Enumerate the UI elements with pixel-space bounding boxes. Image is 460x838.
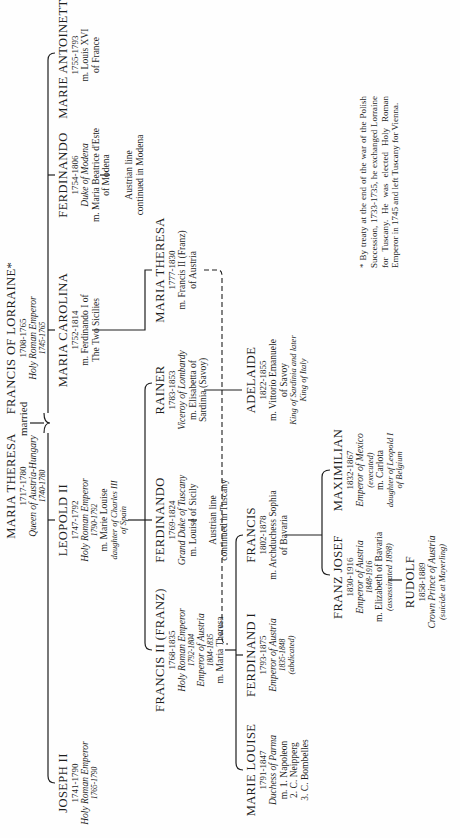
- person-dates: 1802-1878: [258, 490, 268, 579]
- person-francis-1802: FRANCIS 1802-1878 m. Archduchess Sophia …: [244, 490, 289, 579]
- person-dates: 1769-1824: [167, 475, 177, 566]
- person-title: Duke of Modena: [80, 128, 91, 222]
- person-spouse-note: of Belgium: [395, 429, 405, 511]
- person-line-note: Austrian line: [208, 475, 219, 566]
- person-reign: 1804-1835: [207, 588, 215, 712]
- person-reign: 1790-1792: [91, 478, 99, 562]
- person-name: FRANCIS II (FRANZ): [153, 588, 167, 712]
- person-maximilian: MAXIMILIAN 1832-1867 Emperor of Mexico (…: [331, 429, 405, 511]
- person-ferdinand-i: FERDINAND I 1793-1875 Emperor of Austria…: [244, 613, 297, 697]
- person-spouse: m. Archduchess Sophia: [268, 490, 279, 579]
- person-note: (assassinated 1898): [385, 532, 395, 622]
- person-francis-ii: FRANCIS II (FRANZ) 1768-1835 Holy Roman …: [153, 588, 226, 712]
- person-spouse: m. 1. Napoleon: [279, 724, 290, 817]
- person-name: RUDOLF: [403, 535, 417, 628]
- person-spouse: m. Maria Beatrice d'Este: [91, 128, 102, 222]
- person-name: FERDINAND I: [244, 613, 258, 697]
- person-reign: 1792-1804: [188, 588, 196, 712]
- person-dates: 1747-1792: [70, 478, 80, 562]
- person-leopold-ii: LEOPOLD II 1747-1792 Holy Roman Emperor …: [56, 478, 129, 562]
- person-dates: 1754-1806: [70, 128, 80, 222]
- person-dates: 1791-1847: [258, 724, 268, 817]
- person-dates: 1752-1814: [70, 273, 80, 387]
- person-name: RAINER: [153, 350, 167, 429]
- person-name: MARIE LOUISE: [244, 724, 258, 817]
- person-dates: 1717-1780: [18, 433, 28, 538]
- person-dates: 1793-1875: [258, 613, 268, 697]
- person-spouse: m. Elisabetta of: [188, 350, 199, 429]
- person-spouse: m. Maria Theresa: [215, 588, 226, 712]
- person-dates: 1755-1793: [70, 0, 80, 119]
- person-spouse: 2. C. Neipperg: [289, 724, 300, 817]
- person-name: LEOPOLD II: [56, 478, 70, 562]
- person-spouse: Sardinia (Savoy): [198, 350, 209, 429]
- person-franz-josef: FRANZ JOSEF 1830-1916 Emperor of Austria…: [331, 532, 394, 622]
- person-spouse-note: of Spain: [119, 478, 129, 562]
- person-dates: 1783-1853: [167, 350, 177, 429]
- person-line-note: continued in Tuscany: [219, 475, 230, 566]
- person-adelaide: ADELAIDE 1822-1855 m. Vittorio Emanuele …: [244, 335, 308, 424]
- person-reign: 1745-1765: [39, 262, 47, 414]
- person-name: MARIA THERESA: [153, 217, 167, 322]
- person-title: Grand Duke of Tuscany: [177, 475, 188, 566]
- person-dates: 1741-1790: [70, 741, 80, 825]
- person-spouse: 3. C. Bombelles: [300, 724, 311, 817]
- person-name: MARIA THERESA: [4, 433, 18, 538]
- person-dates: 1858-1889: [417, 535, 427, 628]
- person-spouse: of France: [91, 0, 102, 119]
- person-spouse: m. Louis XVI: [80, 0, 91, 119]
- person-spouse: of Austria: [188, 217, 199, 322]
- person-name: JOSEPH II: [56, 741, 70, 825]
- person-joseph-ii: JOSEPH II 1741-1790 Holy Roman Emperor 1…: [56, 741, 99, 825]
- person-note: (suicide at Mayerling): [438, 535, 448, 628]
- person-reign: 1848-1916: [366, 532, 374, 622]
- person-line-note: Austrian line: [124, 128, 135, 222]
- person-name: FERDINANDO: [56, 128, 70, 222]
- person-name: FRANCIS: [244, 490, 258, 579]
- person-spouse: of Bavaria: [279, 490, 290, 579]
- person-note: (abdicated): [287, 613, 297, 697]
- person-rudolf: RUDOLF 1858-1889 Crown Prince of Austria…: [403, 535, 447, 628]
- person-dates: 1777-1830: [167, 217, 177, 322]
- person-dates: 1822-1855: [258, 335, 268, 424]
- person-name: FRANZ JOSEF: [331, 532, 345, 622]
- person-reign: 1740-1780: [39, 433, 47, 538]
- person-spouse: The Two Sicilies: [91, 273, 102, 387]
- person-ferdinando-tuscany: FERDINANDO 1769-1824 Grand Duke of Tusca…: [153, 475, 230, 566]
- person-dates: 1832-1867: [345, 429, 355, 511]
- person-name: FRANCIS OF LORRAINE*: [4, 262, 18, 414]
- person-title: Viceroy of Lombardy: [177, 350, 188, 429]
- person-dates: 1708-1765: [18, 262, 28, 414]
- person-rainer: RAINER 1783-1853 Viceroy of Lombardy m. …: [153, 350, 209, 429]
- person-francis-of-lorraine: FRANCIS OF LORRAINE* 1708-1765 Holy Roma…: [4, 262, 47, 414]
- person-note: (executed): [366, 429, 376, 511]
- person-name: FERDINANDO: [153, 475, 167, 566]
- person-spouse: m. Ferdinando I of: [80, 273, 91, 387]
- person-title: Duchess of Parma: [268, 724, 279, 817]
- family-tree-page: MARIA THERESA 1717-1780 Queen of Austria…: [0, 0, 460, 838]
- person-name: MARIE ANTOINETTE: [56, 0, 70, 119]
- person-line-note: continued in Modena: [135, 128, 146, 222]
- person-marie-louise: MARIE LOUISE 1791-1847 Duchess of Parma …: [244, 724, 311, 817]
- person-spouse: m. Louise of Sicily: [188, 475, 199, 566]
- person-name: MARIA CAROLINA: [56, 273, 70, 387]
- person-spouse: of Modena: [101, 128, 112, 222]
- person-dates: 1768-1835: [167, 588, 177, 712]
- person-ferdinando-modena: FERDINANDO 1754-1806 Duke of Modena m. M…: [56, 128, 145, 222]
- person-spouse: m. Francis II (Franz): [177, 217, 188, 322]
- person-name: MAXIMILIAN: [331, 429, 345, 511]
- person-name: ADELAIDE: [244, 335, 258, 424]
- footnote: * By treaty at the end of the war of the…: [358, 96, 401, 268]
- person-maria-theresa-root: MARIA THERESA 1717-1780 Queen of Austria…: [4, 433, 47, 538]
- person-reign: 1765-1790: [91, 741, 99, 825]
- person-spouse: m. Vittorio Emanuele: [268, 335, 279, 424]
- person-dates: 1830-1916: [345, 532, 355, 622]
- person-title: King of Italy: [299, 335, 309, 424]
- person-maria-carolina: MARIA CAROLINA 1752-1814 m. Ferdinando I…: [56, 273, 101, 387]
- person-maria-theresa-1777: MARIA THERESA 1777-1830 m. Francis II (F…: [153, 217, 198, 322]
- person-marie-antoinette: MARIE ANTOINETTE 1755-1793 m. Louis XVI …: [56, 0, 101, 119]
